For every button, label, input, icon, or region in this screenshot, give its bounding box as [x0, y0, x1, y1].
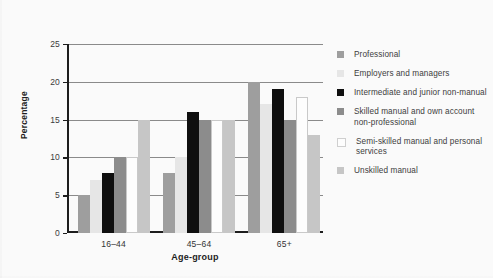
bar: [296, 97, 308, 233]
x-axis-tick-label: 65+: [277, 239, 292, 249]
legend-entry: Unskilled manual: [337, 166, 487, 177]
y-axis-tick-label: 15: [50, 115, 60, 125]
y-axis-tick-label: 10: [50, 152, 60, 162]
y-axis-tick-label: 5: [55, 190, 60, 200]
y-axis-title: Percentage: [19, 91, 29, 139]
bar: [272, 89, 284, 233]
bar-group: [163, 44, 235, 233]
bar-group: [78, 44, 150, 233]
legend-swatch: [337, 167, 344, 174]
legend-entry: Skilled manual and own account non-profe…: [337, 107, 487, 128]
y-axis-tick-mark: [63, 233, 67, 234]
legend-label: Intermediate and junior non-manual: [354, 88, 487, 99]
bar: [211, 120, 223, 233]
y-axis-tick-label: 0: [55, 228, 60, 238]
bar: [163, 173, 175, 233]
y-axis-tick-label: 25: [50, 39, 60, 49]
legend-swatch: [337, 51, 344, 58]
bar: [260, 104, 272, 233]
bar: [248, 82, 260, 233]
bars-layer: [67, 44, 323, 233]
legend-swatch: [337, 108, 344, 115]
bar: [308, 135, 320, 233]
x-axis-tick-label: 16–44: [101, 239, 126, 249]
x-axis-tick-label: 45–64: [187, 239, 212, 249]
legend-entry: Intermediate and junior non-manual: [337, 88, 487, 99]
legend-swatch: [337, 138, 346, 147]
bar: [138, 120, 150, 233]
legend-entry: Employers and managers: [337, 69, 487, 80]
legend-label: Semi-skilled manual and personal service…: [356, 137, 487, 158]
legend: ProfessionalEmployers and managersInterm…: [337, 50, 487, 185]
legend-entry: Professional: [337, 50, 487, 61]
bar-chart-figure: Percentage 0510152025 16–4445–6465+ Age-…: [0, 0, 493, 278]
legend-swatch: [337, 70, 344, 77]
legend-label: Skilled manual and own account non-profe…: [354, 107, 487, 128]
bar: [78, 195, 90, 233]
bar: [175, 157, 187, 233]
bar: [187, 112, 199, 233]
y-axis-tick-label: 20: [50, 77, 60, 87]
bar: [126, 157, 138, 233]
bar: [102, 173, 114, 233]
plot-area: 0510152025 16–4445–6465+: [67, 44, 323, 233]
legend-swatch: [337, 89, 344, 96]
legend-label: Unskilled manual: [354, 166, 418, 177]
bar: [223, 120, 235, 233]
bar: [90, 180, 102, 233]
bar: [284, 120, 296, 233]
bar-group: [248, 44, 320, 233]
bar: [199, 120, 211, 233]
legend-label: Professional: [354, 50, 400, 61]
x-axis-title: Age-group: [171, 252, 218, 262]
legend-entry: Semi-skilled manual and personal service…: [337, 137, 487, 158]
bar: [114, 157, 126, 233]
legend-label: Employers and managers: [354, 69, 450, 80]
